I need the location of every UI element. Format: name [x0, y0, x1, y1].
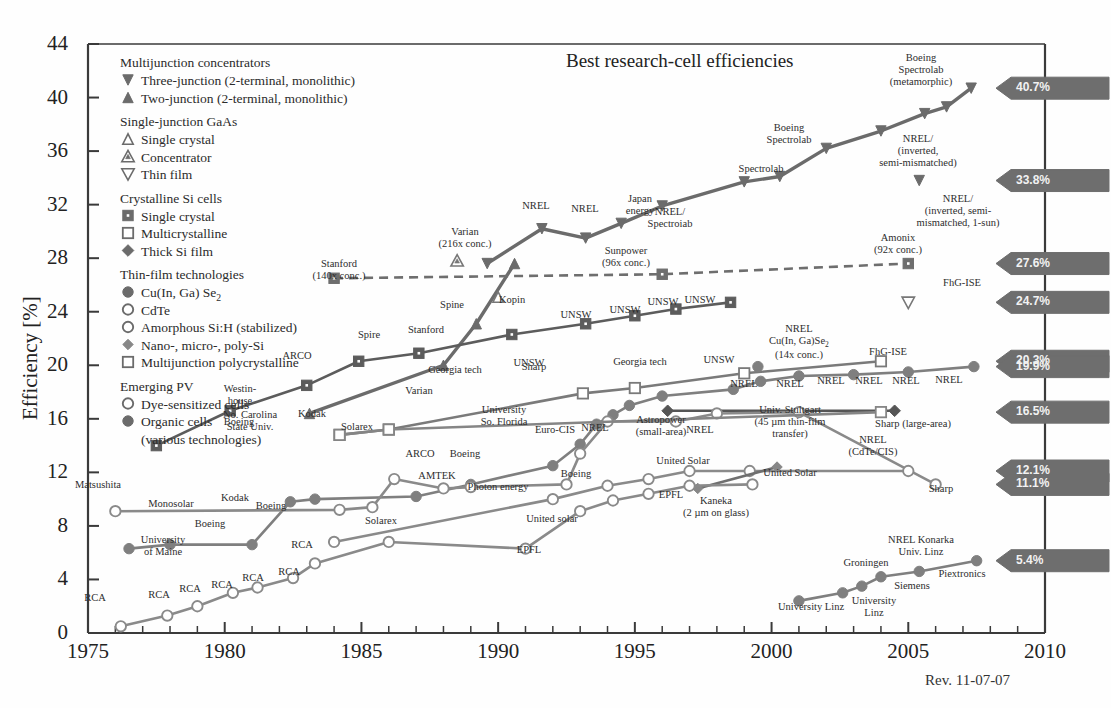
legend-marker	[123, 75, 133, 85]
data-annotation: UNSW	[648, 296, 679, 308]
x-axis-tick: 2005	[863, 639, 953, 664]
legend-marker	[122, 150, 134, 161]
data-annotation: EPFL	[517, 544, 542, 556]
data-annotation: Solarex	[365, 515, 397, 527]
series-3	[451, 255, 463, 266]
data-annotation: NREL(CdTe/CIS)	[849, 434, 898, 458]
chart-root: 048121620242832364044Efficiency [%]19751…	[0, 0, 1111, 708]
y-axis-tick: 44	[22, 31, 68, 56]
badge-value: 19.9%	[1016, 359, 1050, 373]
legend-item-label: Three-junction (2-terminal, monolithic)	[141, 73, 355, 89]
data-annotation: Univ. Stultgart(45 µm thin-filmtransfer)	[755, 404, 826, 439]
legend-item-label: Thick Si film	[141, 244, 213, 260]
data-annotation: RCA	[148, 589, 170, 601]
data-annotation: Kaneka(2 µm on glass)	[683, 495, 749, 519]
data-annotation: NREL	[730, 378, 757, 390]
data-annotation: Georgia tech	[613, 356, 667, 368]
data-annotation: Georgia tech	[428, 364, 482, 376]
series-4	[902, 297, 914, 308]
legend-marker	[122, 169, 134, 180]
data-annotation: EPFL	[659, 489, 684, 501]
legend-item-label: Thin film	[141, 167, 192, 183]
y-axis-tick: 32	[22, 192, 68, 217]
legend-item-label: Nano-, micro-, poly-Si	[141, 338, 264, 354]
data-annotation: Solarex	[341, 421, 373, 433]
data-annotation: BoeingSpectrolab	[767, 122, 812, 146]
data-annotation: NREL	[581, 422, 608, 434]
data-annotation: UNSW	[704, 354, 735, 366]
legend-item-label: Amorphous Si:H (stabilized)	[141, 320, 297, 336]
data-annotation: Amonix(92x conc.)	[874, 232, 922, 256]
y-axis-tick: 36	[22, 138, 68, 163]
data-annotation: Boeing	[450, 448, 480, 460]
data-annotation: UNSW	[685, 294, 716, 306]
legend-marker	[123, 287, 133, 297]
data-annotation: Kodak	[298, 408, 326, 420]
y-axis-tick: 4	[22, 566, 68, 591]
data-annotation: Stanford	[408, 324, 444, 336]
data-annotation: Boeing	[224, 416, 254, 428]
data-annotation: RCA	[242, 572, 264, 584]
data-annotation: Piextronics	[938, 568, 985, 580]
data-annotation: Boeing	[561, 468, 591, 480]
badge-value: 12.1%	[1016, 463, 1050, 477]
efficiency-badge	[996, 356, 1109, 378]
legend-marker	[123, 339, 133, 349]
badge-value: 24.7%	[1016, 294, 1050, 308]
data-annotation: NREL	[817, 375, 844, 387]
data-annotation: Spine	[440, 299, 464, 311]
legend-marker	[123, 210, 133, 220]
data-annotation: NREL	[935, 374, 962, 386]
data-annotation: RCA	[84, 592, 106, 604]
data-annotation: BoeingSpectrolab(metamorphic)	[890, 52, 952, 87]
data-annotation: NRELCu(In, Ga)Se2(14x conc.)	[769, 323, 829, 361]
badge-value: 5.4%	[1016, 553, 1043, 567]
legend-item-label: (various technologies)	[141, 432, 261, 448]
data-annotation: AMTEK	[418, 470, 455, 482]
data-annotation: NREL KonarkaUniv. Linz	[888, 534, 954, 558]
data-annotation: Groningen	[844, 557, 889, 569]
data-annotation: Stanford(140x conc.)	[312, 258, 365, 282]
data-annotation: Varian	[405, 385, 432, 397]
data-annotation: Spectrolab	[739, 163, 784, 175]
data-annotation: Varian(216x conc.)	[438, 226, 491, 250]
legend-item-label: Single crystal	[141, 209, 215, 225]
legend-marker	[123, 322, 133, 332]
legend-marker	[123, 398, 133, 408]
data-annotation: ARCO	[405, 448, 434, 460]
data-annotation: Photon energy	[468, 481, 529, 493]
legend-marker	[123, 92, 133, 102]
efficiency-badge	[996, 550, 1109, 572]
data-annotation: NREL/Spectroiab	[648, 206, 693, 230]
x-axis-tick: 1980	[180, 639, 270, 664]
legend-item-label: Concentrator	[141, 150, 211, 166]
legend-item-label: CdTe	[141, 303, 170, 319]
x-axis-tick: 1990	[453, 639, 543, 664]
efficiency-badge	[996, 291, 1109, 313]
badge-value: 16.5%	[1016, 404, 1050, 418]
data-annotation: Sharp	[929, 483, 954, 495]
legend-heading: Crystalline Si cells	[120, 191, 222, 207]
data-annotation: NREL	[892, 375, 919, 387]
legend-marker	[123, 357, 133, 367]
data-annotation: Westin-house	[224, 383, 256, 407]
revision-label: Rev. 11-07-07	[925, 672, 1010, 689]
y-axis-tick: 28	[22, 245, 68, 270]
legend-item-label: Multijunction polycrystalline	[141, 355, 299, 371]
legend-marker	[123, 304, 133, 314]
data-annotation: NREL	[855, 375, 882, 387]
data-annotation: Boeing	[195, 518, 225, 530]
x-axis-tick: 1985	[316, 639, 406, 664]
data-annotation: Kopin	[499, 294, 525, 306]
data-annotation: Kodak	[221, 492, 249, 504]
legend-marker	[123, 416, 133, 426]
legend-item-label: Cu(In, Ga) Se2	[141, 285, 221, 303]
data-annotation: UniversityLinz	[852, 595, 896, 619]
data-annotation: Siemens	[894, 580, 930, 592]
efficiency-badge	[996, 473, 1109, 495]
legend-item-label: Two-junction (2-terminal, monolithic)	[141, 91, 347, 107]
data-annotation: UNSW	[610, 304, 641, 316]
data-annotation: Astropower(small-area)	[636, 414, 687, 438]
legend-marker	[123, 134, 133, 144]
data-annotation: UniversitySo. Florida	[481, 404, 528, 428]
